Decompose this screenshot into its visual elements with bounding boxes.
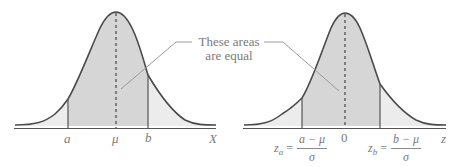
zb-numerator: b − μ	[391, 132, 421, 149]
tick-label-zero: 0	[341, 131, 348, 144]
za-fraction: a − μ σ	[297, 132, 327, 165]
tick-label-b: b	[145, 131, 152, 144]
za-denominator: σ	[309, 149, 315, 165]
right-panel	[243, 13, 446, 129]
z-left-tail-fill	[244, 98, 302, 126]
zb-denominator: σ	[403, 149, 409, 165]
zb-fraction: b − μ σ	[391, 132, 421, 165]
callout-line-2: are equal	[189, 49, 269, 63]
normal-distribution-diagram: These areas are equal a μ b X 0 z za = a…	[0, 0, 461, 167]
tick-label-mu: μ	[112, 132, 119, 145]
za-formula: za = a − μ σ	[274, 132, 327, 165]
callout-line-1: These areas	[189, 35, 269, 49]
zb-lhs: zb =	[368, 141, 387, 157]
areas-equal-callout: These areas are equal	[189, 35, 269, 63]
tick-label-a: a	[64, 132, 71, 145]
z-right-tail-fill	[380, 84, 446, 126]
x-axis-label: X	[209, 132, 217, 145]
za-lhs: za =	[274, 141, 293, 157]
z-axis-label: z	[441, 132, 446, 145]
left-panel	[14, 12, 216, 129]
zb-formula: zb = b − μ σ	[368, 132, 421, 165]
center-area-fill	[68, 12, 148, 126]
za-numerator: a − μ	[297, 132, 327, 149]
